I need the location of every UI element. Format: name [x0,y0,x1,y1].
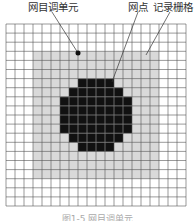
halftone-cell-leader [52,12,78,53]
figure-caption: 图1-5 网目调单元 [0,212,195,221]
recording-grid-leader [146,12,170,55]
leader-dot-icon [76,51,81,56]
halftone-grid-diagram [0,0,195,221]
